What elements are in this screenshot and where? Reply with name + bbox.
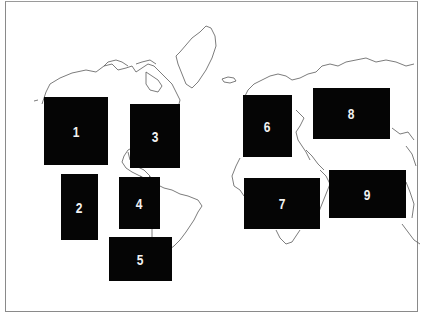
region-label-3: 3	[152, 128, 159, 145]
region-label-6: 6	[264, 118, 271, 135]
region-label-1: 1	[73, 123, 80, 140]
region-box-8[interactable]: 8	[313, 88, 390, 139]
region-box-5[interactable]: 5	[109, 237, 172, 281]
region-box-9[interactable]: 9	[329, 170, 406, 218]
region-box-1[interactable]: 1	[44, 97, 108, 165]
region-box-2[interactable]: 2	[61, 174, 98, 240]
coast-iceland	[222, 77, 236, 83]
region-label-7: 7	[279, 195, 286, 212]
region-label-9: 9	[364, 186, 371, 203]
region-box-6[interactable]: 6	[243, 95, 292, 157]
region-label-8: 8	[348, 105, 355, 122]
region-label-4: 4	[136, 195, 143, 212]
region-label-2: 2	[76, 199, 83, 216]
region-label-5: 5	[137, 251, 144, 268]
region-box-3[interactable]: 3	[130, 104, 180, 168]
region-box-4[interactable]: 4	[119, 177, 160, 229]
coast-greenland	[176, 26, 216, 88]
region-box-7[interactable]: 7	[244, 178, 320, 229]
